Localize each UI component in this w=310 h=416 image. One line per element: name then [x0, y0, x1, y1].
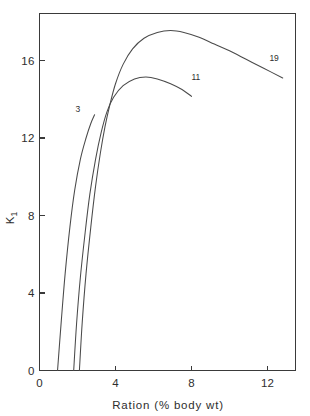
y-tick-label-16: 16 [21, 55, 34, 67]
plot-frame [40, 14, 296, 371]
y-tick-label-8: 8 [28, 210, 35, 222]
series-label-3: 3 [76, 104, 81, 114]
y-tick-label-0: 0 [28, 365, 35, 377]
y-tick-label-4: 4 [28, 287, 35, 299]
series-labels: 31119 [76, 53, 280, 114]
data-curves [58, 30, 283, 370]
curve-19 [79, 30, 282, 370]
x-axis-tick-labels: 04812 [36, 377, 274, 389]
x-tick-label-4: 4 [112, 377, 119, 389]
y-tick-label-12: 12 [21, 132, 34, 144]
y-axis-ticks [40, 61, 45, 294]
x-tick-label-12: 12 [261, 377, 274, 389]
y-axis-title-text: K1 [4, 212, 19, 225]
y-axis-title: K1 [4, 212, 19, 225]
chart-figure: 04812 0481216 31119 K1 Ration (% body wt… [0, 0, 310, 416]
x-tick-label-0: 0 [36, 377, 43, 389]
y-axis-tick-labels: 0481216 [21, 55, 35, 377]
series-label-19: 19 [269, 53, 279, 63]
x-axis-title-text: Ration (% body wt) [112, 399, 224, 411]
series-label-11: 11 [192, 72, 201, 82]
x-tick-label-8: 8 [188, 377, 195, 389]
x-axis-ticks [116, 366, 268, 371]
chart-canvas: 04812 0481216 31119 K1 Ration (% body wt… [0, 0, 310, 416]
